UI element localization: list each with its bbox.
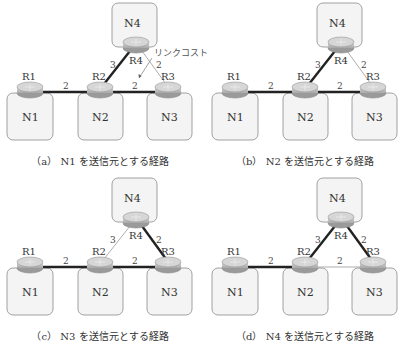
router-r1	[222, 257, 248, 273]
caption-b: （b） N2 を送信元とする経路	[205, 153, 400, 168]
router-r4	[328, 37, 354, 53]
cost-r2-r3: 2	[337, 82, 343, 91]
label-n4: N4	[124, 18, 141, 29]
cost-r2-r3: 2	[337, 257, 343, 266]
label-n3: N3	[366, 287, 383, 298]
router-r2	[292, 82, 318, 98]
label-n2: N2	[297, 112, 314, 123]
caption-a: （a） N1 を送信元とする経路	[0, 153, 200, 168]
cost-r2-r4: 3	[110, 236, 116, 245]
cost-r2-r3: 2	[132, 257, 138, 266]
cost-r2-r3: 2	[132, 82, 138, 91]
label-r4: R4	[129, 56, 143, 66]
label-n2: N2	[92, 112, 109, 123]
router-r1	[17, 82, 43, 98]
label-n3: N3	[366, 112, 383, 123]
router-r3	[155, 257, 181, 273]
caption-c: （c） N3 を送信元とする経路	[0, 328, 200, 343]
label-n4: N4	[124, 193, 141, 204]
network-diagram-d	[205, 175, 400, 349]
panel-c: N4 N1 N2 N3 R1 R2 R3 R4 2 2 3 2 （c） N3 を…	[0, 175, 200, 349]
label-r1: R1	[22, 72, 36, 82]
router-r3	[360, 257, 386, 273]
label-n2: N2	[92, 287, 109, 298]
router-r3	[360, 82, 386, 98]
label-n1: N1	[22, 112, 39, 123]
cost-r2-r4: 3	[315, 236, 321, 245]
link-r2-r4	[309, 226, 335, 259]
cost-r1-r2: 2	[63, 82, 69, 91]
panel-a: N4 N1 N2 N3 R1 R2 R3 R4 2 2 3 2 リンクコスト （…	[0, 0, 200, 175]
label-n1: N1	[227, 112, 244, 123]
label-n3: N3	[161, 112, 178, 123]
cost-r2-r4: 3	[110, 61, 116, 70]
cost-r2-r4: 3	[315, 61, 321, 70]
network-diagram-a	[0, 0, 200, 175]
cost-r3-r4: 2	[156, 61, 162, 70]
router-r2	[292, 257, 318, 273]
router-r1	[17, 257, 43, 273]
label-r3: R3	[161, 247, 175, 257]
link-r2-r4	[104, 51, 130, 84]
caption-d: （d） N4 を送信元とする経路	[205, 328, 400, 343]
router-r3	[155, 82, 181, 98]
label-n1: N1	[227, 287, 244, 298]
label-r4: R4	[334, 56, 348, 66]
panel-b: N4 N1 N2 N3 R1 R2 R3 R4 2 2 3 2 （b） N2 を…	[205, 0, 400, 175]
cost-r3-r4: 2	[361, 236, 367, 245]
label-r1: R1	[22, 247, 36, 257]
cost-r3-r4: 2	[156, 236, 162, 245]
router-r1	[222, 82, 248, 98]
link-r2-r4	[104, 226, 130, 259]
link-cost-annotation: リンクコスト	[154, 49, 208, 58]
label-r3: R3	[161, 72, 175, 82]
label-r2: R2	[297, 72, 311, 82]
label-n4: N4	[329, 193, 346, 204]
router-r2	[87, 257, 113, 273]
router-r2	[87, 82, 113, 98]
label-n4: N4	[329, 18, 346, 29]
label-r3: R3	[366, 72, 380, 82]
router-r4	[123, 212, 149, 228]
cost-r3-r4: 2	[361, 61, 367, 70]
network-diagram-c	[0, 175, 200, 349]
label-r3: R3	[366, 247, 380, 257]
label-r1: R1	[227, 72, 241, 82]
label-n3: N3	[161, 287, 178, 298]
network-diagram-b	[205, 0, 400, 175]
label-r4: R4	[334, 231, 348, 241]
router-r4	[328, 212, 354, 228]
label-n2: N2	[297, 287, 314, 298]
cost-r1-r2: 2	[63, 257, 69, 266]
cost-r1-r2: 2	[268, 257, 274, 266]
router-r4	[123, 37, 149, 53]
label-r2: R2	[297, 247, 311, 257]
label-r2: R2	[92, 72, 106, 82]
link-r2-r4	[309, 51, 335, 84]
panel-d: N4 N1 N2 N3 R1 R2 R3 R4 2 2 3 2 （d） N4 を…	[205, 175, 400, 349]
label-n1: N1	[22, 287, 39, 298]
cost-r1-r2: 2	[268, 82, 274, 91]
label-r2: R2	[92, 247, 106, 257]
label-r4: R4	[129, 231, 143, 241]
label-r1: R1	[227, 247, 241, 257]
